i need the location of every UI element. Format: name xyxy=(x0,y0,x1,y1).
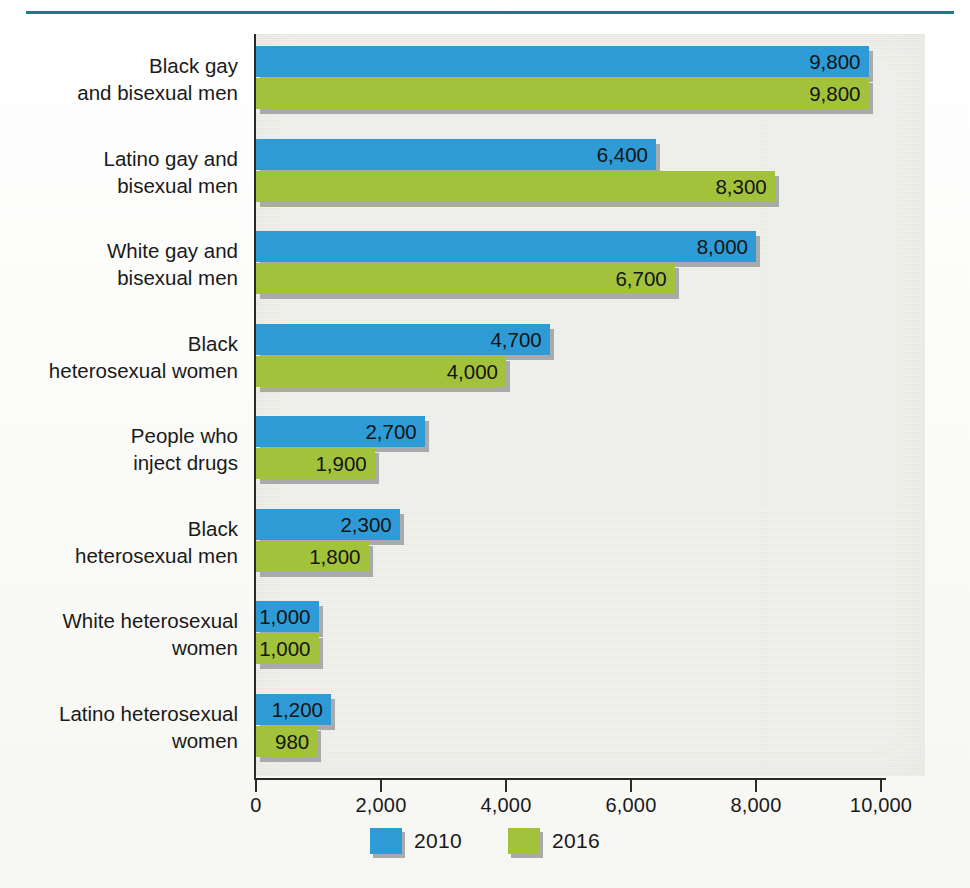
legend-label-2016: 2016 xyxy=(552,829,600,853)
bar-value-label: 1,800 xyxy=(309,541,360,572)
bar-fill: 9,800 xyxy=(256,46,869,77)
bar-pair: 1,0001,000 xyxy=(256,589,970,679)
bar-fill: 8,000 xyxy=(256,231,756,262)
bar-fill: 980 xyxy=(256,726,317,757)
bar-2016[interactable]: 980 xyxy=(256,726,325,757)
category-label: Black heterosexual men xyxy=(0,515,238,569)
x-tick-5 xyxy=(880,780,882,792)
bar-group: Black heterosexual women4,7004,000 xyxy=(0,312,970,402)
bar-2010[interactable]: 2,300 xyxy=(256,509,408,540)
category-label: Black gay and bisexual men xyxy=(0,52,238,106)
bar-2016[interactable]: 1,000 xyxy=(256,633,327,664)
x-tick-2 xyxy=(505,780,507,792)
bar-value-label: 2,700 xyxy=(365,416,416,447)
x-tick-1 xyxy=(380,780,382,792)
top-accent-rule xyxy=(26,11,954,14)
bar-fill: 4,000 xyxy=(256,356,506,387)
bar-2016[interactable]: 1,900 xyxy=(256,448,383,479)
bar-fill: 6,700 xyxy=(256,263,675,294)
x-tick-label-5: 10,000 xyxy=(850,794,912,817)
bar-2016[interactable]: 4,000 xyxy=(256,356,514,387)
legend-swatch-2016-icon xyxy=(508,828,540,854)
bar-2010[interactable]: 2,700 xyxy=(256,416,433,447)
bar-fill: 4,700 xyxy=(256,324,550,355)
bar-value-label: 4,000 xyxy=(447,356,498,387)
bar-value-label: 1,000 xyxy=(259,633,310,664)
legend-swatch-2010-icon xyxy=(370,828,402,854)
bar-value-label: 8,000 xyxy=(697,231,748,262)
bar-value-label: 980 xyxy=(275,726,309,757)
bar-pair: 6,4008,300 xyxy=(256,127,970,217)
bar-fill: 9,800 xyxy=(256,78,869,109)
bar-fill: 1,800 xyxy=(256,541,369,572)
bar-2010[interactable]: 1,000 xyxy=(256,601,327,632)
legend-item-2010[interactable]: 2010 xyxy=(370,828,462,854)
bar-pair: 2,7001,900 xyxy=(256,404,970,494)
bar-2010[interactable]: 8,000 xyxy=(256,231,764,262)
bar-2010[interactable]: 4,700 xyxy=(256,324,558,355)
bar-pair: 4,7004,000 xyxy=(256,312,970,402)
bar-group: Latino gay and bisexual men6,4008,300 xyxy=(0,127,970,217)
category-label: People who inject drugs xyxy=(0,422,238,476)
chart-legend: 2010 2016 xyxy=(0,828,970,854)
bar-value-label: 8,300 xyxy=(715,171,766,202)
legend-item-2016[interactable]: 2016 xyxy=(508,828,600,854)
category-label: White gay and bisexual men xyxy=(0,237,238,291)
x-tick-0 xyxy=(255,780,257,792)
bar-value-label: 1,200 xyxy=(272,694,323,725)
x-tick-label-3: 6,000 xyxy=(605,794,656,817)
bar-pair: 9,8009,800 xyxy=(256,34,970,124)
bar-chart-figure: 02,0004,0006,0008,00010,000 Black gay an… xyxy=(0,0,970,888)
x-axis-line xyxy=(254,778,886,780)
x-tick-label-0: 0 xyxy=(250,794,261,817)
bar-fill: 1,000 xyxy=(256,633,319,664)
bar-2016[interactable]: 1,800 xyxy=(256,541,377,572)
bar-value-label: 9,800 xyxy=(809,46,860,77)
bar-fill: 2,300 xyxy=(256,509,400,540)
category-label: Latino gay and bisexual men xyxy=(0,145,238,199)
bar-pair: 8,0006,700 xyxy=(256,219,970,309)
bar-group: Latino heterosexual women1,200980 xyxy=(0,682,970,772)
bar-2010[interactable]: 1,200 xyxy=(256,694,339,725)
bar-value-label: 6,400 xyxy=(597,139,648,170)
bar-2016[interactable]: 8,300 xyxy=(256,171,783,202)
bar-fill: 1,200 xyxy=(256,694,331,725)
x-tick-label-1: 2,000 xyxy=(355,794,406,817)
bar-fill: 1,000 xyxy=(256,601,319,632)
category-label: Black heterosexual women xyxy=(0,330,238,384)
bar-value-label: 1,000 xyxy=(259,601,310,632)
bar-group: White gay and bisexual men8,0006,700 xyxy=(0,219,970,309)
bar-group: White heterosexual women1,0001,000 xyxy=(0,589,970,679)
bar-value-label: 6,700 xyxy=(615,263,666,294)
bar-group: People who inject drugs2,7001,900 xyxy=(0,404,970,494)
bar-2010[interactable]: 9,800 xyxy=(256,46,877,77)
x-tick-label-4: 8,000 xyxy=(730,794,781,817)
bar-2016[interactable]: 6,700 xyxy=(256,263,683,294)
bar-group: Black gay and bisexual men9,8009,800 xyxy=(0,34,970,124)
bar-fill: 6,400 xyxy=(256,139,656,170)
legend-label-2010: 2010 xyxy=(414,829,462,853)
bar-value-label: 4,700 xyxy=(490,324,541,355)
bar-2010[interactable]: 6,400 xyxy=(256,139,664,170)
bar-fill: 1,900 xyxy=(256,448,375,479)
bar-2016[interactable]: 9,800 xyxy=(256,78,877,109)
bar-value-label: 2,300 xyxy=(340,509,391,540)
bar-pair: 1,200980 xyxy=(256,682,970,772)
category-label: Latino heterosexual women xyxy=(0,700,238,754)
bar-fill: 8,300 xyxy=(256,171,775,202)
bar-value-label: 9,800 xyxy=(809,78,860,109)
x-tick-3 xyxy=(630,780,632,792)
bar-fill: 2,700 xyxy=(256,416,425,447)
bar-group: Black heterosexual men2,3001,800 xyxy=(0,497,970,587)
bar-value-label: 1,900 xyxy=(315,448,366,479)
category-label: White heterosexual women xyxy=(0,607,238,661)
x-tick-4 xyxy=(755,780,757,792)
x-tick-label-2: 4,000 xyxy=(480,794,531,817)
bar-pair: 2,3001,800 xyxy=(256,497,970,587)
